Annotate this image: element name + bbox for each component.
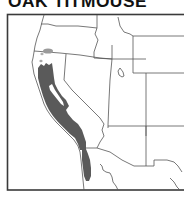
- range-oregon-patch-3: [39, 60, 42, 62]
- range-oregon-patch: [43, 48, 53, 53]
- range-map: [0, 0, 184, 203]
- range-oregon-patch-2: [40, 53, 43, 55]
- map-frame: [8, 15, 185, 191]
